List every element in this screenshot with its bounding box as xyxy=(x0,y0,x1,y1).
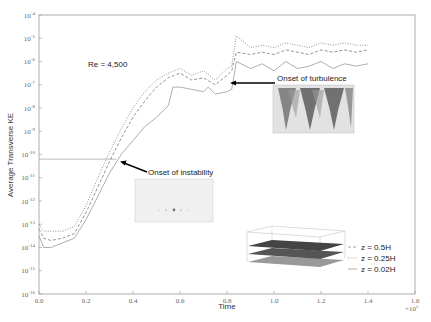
x-tick-label: 0.2 xyxy=(82,297,91,305)
y-tick-label: 10-5 xyxy=(24,34,36,43)
x-tick-label: 0.0 xyxy=(35,297,44,305)
turbulence-inset-image xyxy=(273,85,354,133)
y-tick-label: 10-13 xyxy=(21,220,35,229)
x-tick-label: 0.4 xyxy=(129,297,138,305)
legend-label-0: z = 0.5H xyxy=(361,243,391,252)
y-tick-label: 10-15 xyxy=(21,266,35,275)
onset-turbulence-label: Onset of turbulence xyxy=(277,74,347,83)
y-tick-label: 10-16 xyxy=(21,290,35,299)
instability-inset-image xyxy=(135,179,213,222)
y-tick-label: 10-11 xyxy=(22,173,36,182)
x-axis-label: Time xyxy=(218,302,236,311)
y-tick-label: 10-8 xyxy=(24,104,36,113)
legend-label-2: z = 0.02H xyxy=(361,265,396,274)
y-axis-label: Average Transverse KE xyxy=(6,113,15,197)
y-tick-label: 10-6 xyxy=(24,57,36,66)
y-tick-label: 10-4 xyxy=(24,11,36,20)
y-tick-label: 10-12 xyxy=(21,197,35,206)
x-multiplier: ×105 xyxy=(405,304,419,313)
y-tick-label: 10-7 xyxy=(24,80,36,89)
legend-label-1: z = 0.25H xyxy=(361,254,396,263)
x-tick-label: 1.4 xyxy=(364,297,373,305)
chart: 10-1610-1510-1410-1310-1210-1110-1010-91… xyxy=(0,0,431,322)
x-tick-label: 1.2 xyxy=(317,297,326,305)
onset-instability-label: Onset of instability xyxy=(148,168,213,177)
x-tick-label: 1.0 xyxy=(270,297,279,305)
x-tick-label: 0.6 xyxy=(176,297,185,305)
reynolds-label: Re = 4,500 xyxy=(88,60,128,69)
y-tick-label: 10-9 xyxy=(24,127,36,136)
plot-frame xyxy=(39,15,415,294)
y-tick-label: 10-10 xyxy=(21,150,35,159)
y-tick-label: 10-14 xyxy=(21,243,35,252)
